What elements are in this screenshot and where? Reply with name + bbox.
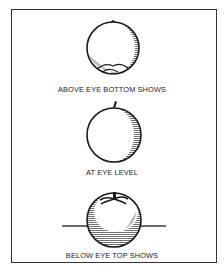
caption-at-eye-level: AT EYE LEVEL <box>0 168 224 177</box>
caption-above-eye: ABOVE EYE BOTTOM SHOWS <box>0 85 224 94</box>
caption-below-eye: BELOW EYE TOP SHOWS <box>0 251 224 260</box>
eye-level-illustration <box>0 0 224 271</box>
fruit-above-eye <box>87 21 139 75</box>
fruit-at-eye-level <box>87 101 141 162</box>
fruit-below-eye <box>62 192 166 247</box>
